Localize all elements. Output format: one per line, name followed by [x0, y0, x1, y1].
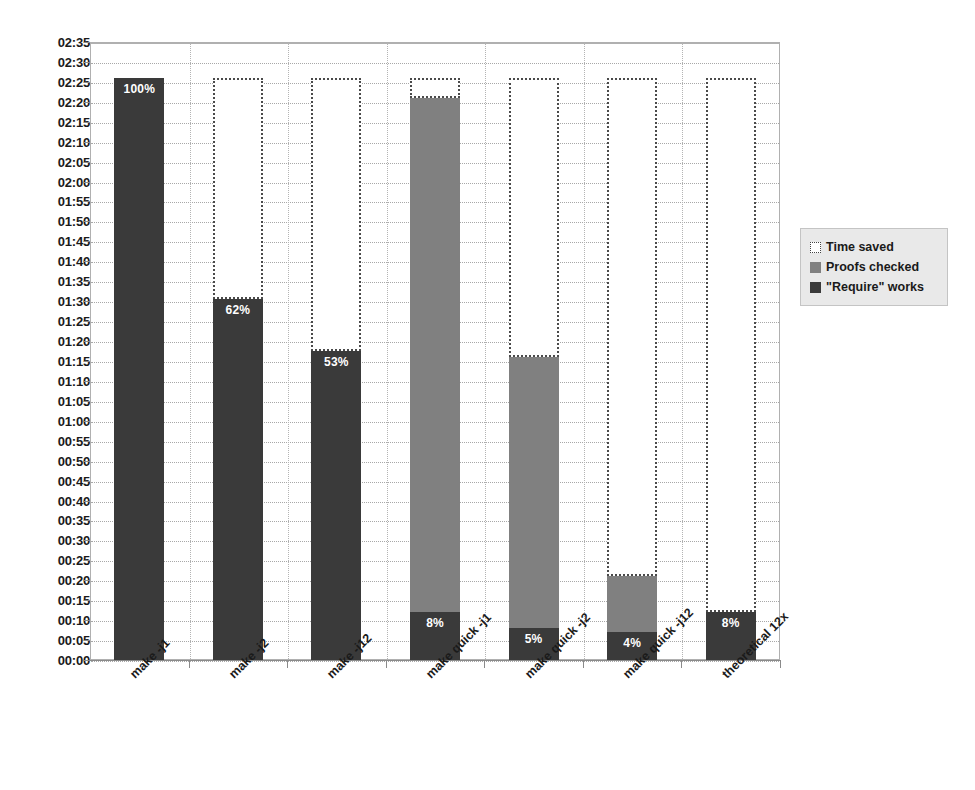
y-axis-tick-label: 00:15	[6, 594, 90, 607]
time-saved-swatch-icon	[810, 242, 821, 253]
legend-item-label: Time saved	[826, 241, 894, 254]
bar-segment-require-works[interactable]: 53%	[311, 351, 361, 660]
bar-column[interactable]: 53%	[311, 42, 361, 660]
y-axis-tick-label: 00:30	[6, 534, 90, 547]
bar-column[interactable]: 100%	[114, 42, 164, 660]
y-axis-tick-label: 01:35	[6, 275, 90, 288]
y-axis-tick-label: 01:20	[6, 335, 90, 348]
y-axis-tick-label: 02:05	[6, 156, 90, 169]
y-axis: 02:3502:3002:2502:2002:1502:1002:0502:00…	[0, 42, 90, 660]
y-axis-tick-label: 01:25	[6, 315, 90, 328]
x-axis-tick-mark	[189, 660, 190, 668]
y-axis-tick-label: 00:20	[6, 574, 90, 587]
bar-segment-require-works[interactable]: 100%	[114, 78, 164, 660]
bar-segment-time-saved[interactable]	[311, 78, 361, 351]
bar-segment-require-works[interactable]: 62%	[213, 299, 263, 660]
y-axis-tick-label: 01:05	[6, 395, 90, 408]
y-axis-tick-label: 01:40	[6, 255, 90, 268]
bar-data-label: 62%	[213, 304, 263, 316]
y-axis-tick-label: 01:30	[6, 295, 90, 308]
bar-segment-proofs-checked[interactable]	[607, 576, 657, 632]
bar-segment-proofs-checked[interactable]	[410, 98, 460, 612]
bar-data-label: 8%	[410, 617, 460, 629]
bars-layer: 100%62%53%8%5%4%8%	[90, 42, 780, 660]
y-axis-tick-label: 00:45	[6, 475, 90, 488]
bar-segment-time-saved[interactable]	[410, 78, 460, 98]
bar-column[interactable]: 5%	[509, 42, 559, 660]
y-axis-tick-label: 00:25	[6, 554, 90, 567]
x-axis-tick-mark	[386, 660, 387, 668]
y-axis-tick-label: 02:15	[6, 116, 90, 129]
bar-segment-time-saved[interactable]	[706, 78, 756, 612]
y-axis-tick-label: 00:00	[6, 654, 90, 667]
y-axis-tick-label: 01:10	[6, 375, 90, 388]
legend-item[interactable]: Time saved	[810, 237, 939, 257]
y-axis-tick-label: 01:00	[6, 415, 90, 428]
y-axis-tick-label: 02:30	[6, 56, 90, 69]
bar-data-label: 53%	[311, 356, 361, 368]
bar-segment-time-saved[interactable]	[213, 78, 263, 299]
x-axis-tick-mark	[287, 660, 288, 668]
y-axis-tick-label: 00:35	[6, 514, 90, 527]
legend-item-label: "Require" works	[826, 281, 924, 294]
bar-column[interactable]: 4%	[607, 42, 657, 660]
y-axis-tick-label: 02:35	[6, 36, 90, 49]
y-axis-tick-label: 00:50	[6, 455, 90, 468]
y-axis-tick-label: 02:00	[6, 176, 90, 189]
chart-container: 02:3502:3002:2502:2002:1502:1002:0502:00…	[0, 0, 975, 790]
bar-segment-proofs-checked[interactable]	[509, 357, 559, 628]
bar-segment-time-saved[interactable]	[607, 78, 657, 576]
y-axis-tick-label: 02:10	[6, 136, 90, 149]
bar-column[interactable]: 8%	[706, 42, 756, 660]
y-axis-tick-label: 01:55	[6, 195, 90, 208]
bar-segment-time-saved[interactable]	[509, 78, 559, 357]
y-axis-tick-label: 01:50	[6, 215, 90, 228]
legend-item-label: Proofs checked	[826, 261, 919, 274]
bar-column[interactable]: 62%	[213, 42, 263, 660]
bar-column[interactable]: 8%	[410, 42, 460, 660]
bar-data-label: 100%	[114, 83, 164, 95]
y-axis-tick-label: 02:25	[6, 76, 90, 89]
y-axis-tick-label: 00:10	[6, 614, 90, 627]
x-axis-tick-mark	[484, 660, 485, 668]
y-axis-tick-label: 01:45	[6, 235, 90, 248]
y-axis-tick-label: 00:40	[6, 495, 90, 508]
y-axis-tick-label: 00:05	[6, 634, 90, 647]
legend-item[interactable]: Proofs checked	[810, 257, 939, 277]
chart-legend: Time savedProofs checked"Require" works	[800, 228, 948, 306]
legend-item[interactable]: "Require" works	[810, 277, 939, 297]
y-axis-tick-label: 01:15	[6, 355, 90, 368]
x-axis-tick-mark	[780, 660, 781, 668]
proofs-checked-swatch-icon	[810, 262, 821, 273]
x-axis-tick-mark	[681, 660, 682, 668]
y-axis-tick-label: 00:55	[6, 435, 90, 448]
bar-data-label: 8%	[706, 617, 756, 629]
x-axis-tick-mark	[583, 660, 584, 668]
y-axis-tick-label: 02:20	[6, 96, 90, 109]
require-works-swatch-icon	[810, 282, 821, 293]
